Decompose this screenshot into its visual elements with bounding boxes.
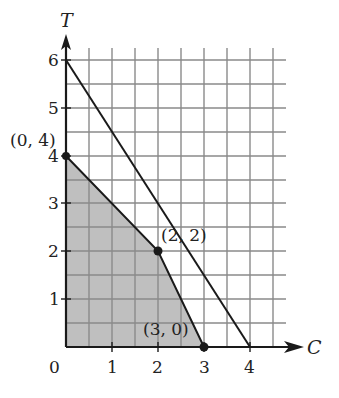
x-tick-3: 3: [199, 357, 210, 377]
point-label-3-0: (3, 0): [143, 319, 189, 339]
vertex-0-4: [62, 152, 70, 160]
point-label-0-4: (0, 4): [10, 130, 56, 150]
y-tick-5: 5: [48, 98, 59, 118]
y-tick-1: 1: [49, 289, 60, 309]
y-tick-2: 2: [48, 241, 59, 261]
x-axis-label: C: [307, 336, 322, 358]
x-tick-1: 1: [107, 357, 118, 377]
x-tick-2: 2: [152, 357, 163, 377]
y-tick-6: 6: [48, 50, 59, 70]
origin-label: 0: [49, 357, 60, 377]
point-label-2-2: (2, 2): [161, 225, 207, 245]
y-axis-label: T: [60, 9, 74, 31]
linear-programming-graph: T C 0 1 2 3 4 1 2 3 4 5 6 (0, 4) (2, 2) …: [0, 0, 339, 398]
vertex-2-2: [154, 247, 163, 256]
vertex-3-0: [200, 343, 209, 352]
y-tick-3: 3: [48, 193, 59, 213]
x-tick-4: 4: [244, 357, 255, 377]
